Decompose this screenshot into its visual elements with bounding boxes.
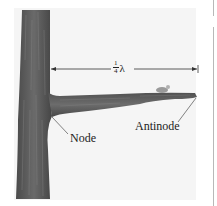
node-label: Node: [70, 132, 96, 144]
antinode-label: Antinode: [135, 120, 180, 132]
standing-wave-tree-diagram: 1 4 λ Node Antinode: [0, 0, 217, 206]
tree-trunk: [16, 10, 52, 199]
quarter-wavelength-label: 1 4 λ: [113, 60, 125, 75]
lambda-symbol: λ: [120, 62, 125, 74]
page-edge-line-bottom: [213, 27, 214, 206]
page-edge-line-top: [213, 0, 214, 16]
tree-branch-illustration: [0, 0, 217, 206]
